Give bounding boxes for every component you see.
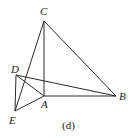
figure-caption: (d) bbox=[62, 119, 75, 132]
segment-de bbox=[15, 75, 16, 111]
segments bbox=[15, 21, 116, 111]
label-c: C bbox=[40, 5, 48, 17]
label-a: A bbox=[40, 98, 48, 110]
geometry-figure: C B A D E (d) bbox=[0, 0, 133, 138]
segment-cb bbox=[44, 21, 116, 96]
label-d: D bbox=[10, 63, 19, 75]
label-b: B bbox=[119, 90, 126, 102]
label-e: E bbox=[8, 114, 16, 126]
segment-db bbox=[16, 75, 116, 96]
segment-ce bbox=[15, 21, 44, 111]
